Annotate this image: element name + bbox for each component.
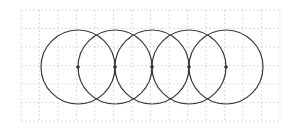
circles-diagram bbox=[0, 0, 291, 132]
center-dot bbox=[187, 65, 191, 69]
center-dot bbox=[113, 65, 117, 69]
center-dot bbox=[76, 65, 80, 69]
center-dot bbox=[150, 65, 154, 69]
center-dot bbox=[224, 65, 228, 69]
